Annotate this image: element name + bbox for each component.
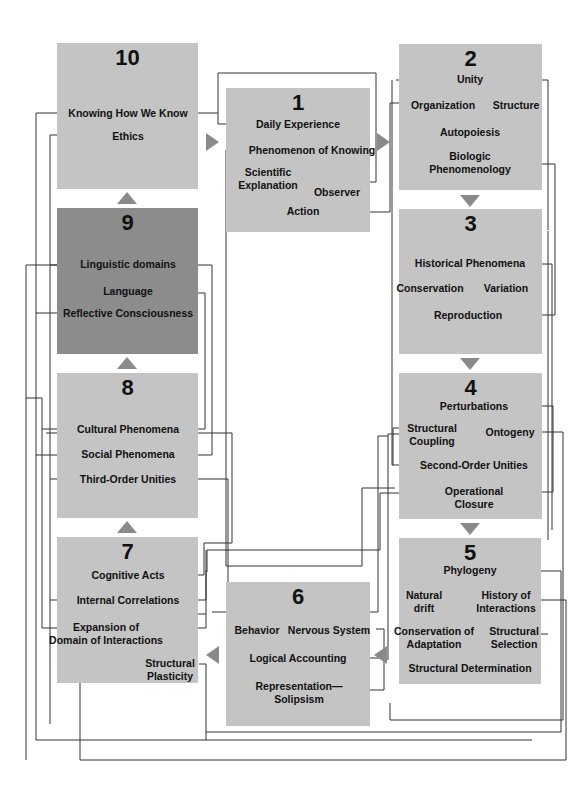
box-9-language: 9 xyxy=(57,208,198,354)
concept-expansion-of-domain[interactable]: Expansion of Domain of Interactions xyxy=(49,621,163,647)
arrow-1-to-2-icon xyxy=(377,133,390,151)
arrow-9-to-10-icon xyxy=(117,192,137,204)
box-number: 4 xyxy=(399,375,542,401)
arrow-2-to-3-icon xyxy=(460,195,480,207)
box-number: 8 xyxy=(57,375,198,401)
concept-conservation-of-adaptation[interactable]: Conservation of Adaptation xyxy=(394,625,474,651)
concept-structural-determination[interactable]: Structural Determination xyxy=(408,662,531,675)
concept-structural-selection[interactable]: Structural Selection xyxy=(489,625,539,651)
concept-language[interactable]: Language xyxy=(103,285,153,298)
box-number: 5 xyxy=(399,540,541,566)
box-number: 2 xyxy=(399,46,542,72)
box-8-cultural-phenomena: 8 xyxy=(57,373,198,518)
concept-structural-coupling[interactable]: Structural Coupling xyxy=(407,422,457,448)
concept-variation[interactable]: Variation xyxy=(484,282,528,295)
concept-daily-experience[interactable]: Daily Experience xyxy=(256,118,340,131)
concept-representation-solipsism[interactable]: Representation— Solipsism xyxy=(256,680,343,706)
concept-structure[interactable]: Structure xyxy=(493,99,540,112)
arrow-10-to-1-icon xyxy=(206,133,219,151)
concept-reproduction[interactable]: Reproduction xyxy=(434,309,502,322)
concept-logical-accounting[interactable]: Logical Accounting xyxy=(249,652,346,665)
concept-nervous-system[interactable]: Nervous System xyxy=(288,624,370,637)
arrow-3-to-4-icon xyxy=(460,358,480,370)
concept-perturbations[interactable]: Perturbations xyxy=(440,400,508,413)
concept-unity[interactable]: Unity xyxy=(457,73,483,86)
concept-natural-drift[interactable]: Natural drift xyxy=(406,589,442,615)
concept-reflective-consciousness[interactable]: Reflective Consciousness xyxy=(63,307,193,320)
box-number: 6 xyxy=(226,584,370,610)
concept-map: 1 Daily Experience Phenomenon of Knowing… xyxy=(0,0,582,787)
concept-cognitive-acts[interactable]: Cognitive Acts xyxy=(91,569,164,582)
concept-ethics[interactable]: Ethics xyxy=(112,130,144,143)
concept-cultural-phenomena[interactable]: Cultural Phenomena xyxy=(77,423,179,436)
box-number: 7 xyxy=(57,539,198,565)
box-number: 10 xyxy=(57,45,198,71)
concept-ontogeny[interactable]: Ontogeny xyxy=(486,426,535,439)
concept-action[interactable]: Action xyxy=(287,205,320,218)
concept-autopoiesis[interactable]: Autopoiesis xyxy=(440,126,500,139)
concept-organization[interactable]: Organization xyxy=(411,99,475,112)
concept-biologic-phenomenology[interactable]: Biologic Phenomenology xyxy=(429,150,511,176)
box-number: 9 xyxy=(57,210,198,236)
concept-phylogeny[interactable]: Phylogeny xyxy=(443,564,496,577)
box-number: 3 xyxy=(399,211,542,237)
concept-structural-plasticity[interactable]: Structural Plasticity xyxy=(145,657,195,683)
concept-linguistic-domains[interactable]: Linguistic domains xyxy=(80,258,176,271)
concept-behavior[interactable]: Behavior xyxy=(235,624,280,637)
arrow-7-to-8-icon xyxy=(117,521,137,533)
concept-third-order-unities[interactable]: Third-Order Unities xyxy=(80,473,176,486)
arrow-8-to-9-icon xyxy=(117,357,137,369)
concept-historical-phenomena[interactable]: Historical Phenomena xyxy=(415,257,525,270)
concept-history-of-interactions[interactable]: History of Interactions xyxy=(476,589,536,615)
concept-scientific-explanation[interactable]: Scientific Explanation xyxy=(238,166,298,192)
concept-internal-correlations[interactable]: Internal Correlations xyxy=(77,594,180,607)
concept-observer[interactable]: Observer xyxy=(314,186,360,199)
arrow-6-to-7-icon xyxy=(206,646,219,664)
concept-social-phenomena[interactable]: Social Phenomena xyxy=(81,448,174,461)
arrow-5-to-6-icon xyxy=(374,646,387,664)
concept-second-order-unities[interactable]: Second-Order Unities xyxy=(420,459,528,472)
concept-knowing-how-we-know[interactable]: Knowing How We Know xyxy=(68,107,187,120)
concept-conservation[interactable]: Conservation xyxy=(396,282,463,295)
arrow-4-to-5-icon xyxy=(460,523,480,535)
box-number: 1 xyxy=(226,90,370,116)
concept-operational-closure[interactable]: Operational Closure xyxy=(445,485,503,511)
concept-phenomenon-of-knowing[interactable]: Phenomenon of Knowing xyxy=(249,144,376,157)
